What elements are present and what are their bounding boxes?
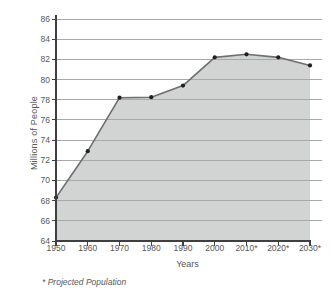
x-axis-tick-label: 1970 bbox=[110, 243, 129, 253]
x-axis-tick-label: 1980 bbox=[142, 243, 161, 253]
data-point-marker bbox=[181, 84, 185, 88]
x-axis-tick-label: 2000 bbox=[205, 243, 224, 253]
area-fill bbox=[56, 54, 310, 241]
data-point-marker bbox=[213, 55, 217, 59]
data-point-marker bbox=[117, 96, 121, 100]
data-point-marker bbox=[244, 52, 248, 56]
population-area-chart: Millions of People 646668707274767880828… bbox=[0, 0, 331, 296]
chart-footnote: * Projected Population bbox=[42, 277, 126, 287]
x-axis-tick-label: 1950 bbox=[47, 243, 66, 253]
data-point-marker bbox=[308, 63, 312, 67]
x-axis-tick-label: 2030* bbox=[299, 243, 321, 253]
x-axis-tick-label: 2010* bbox=[235, 243, 257, 253]
x-axis-tick-label: 1960 bbox=[78, 243, 97, 253]
x-axis-tick-labels: 1950196019701980199020002010*2020*2030* bbox=[0, 243, 331, 257]
x-axis-tick-label: 1990 bbox=[174, 243, 193, 253]
data-point-marker bbox=[149, 95, 153, 99]
data-point-marker bbox=[276, 55, 280, 59]
data-point-marker bbox=[86, 149, 90, 153]
x-axis-tick-label: 2020* bbox=[267, 243, 289, 253]
x-axis-title: Years bbox=[55, 259, 320, 269]
